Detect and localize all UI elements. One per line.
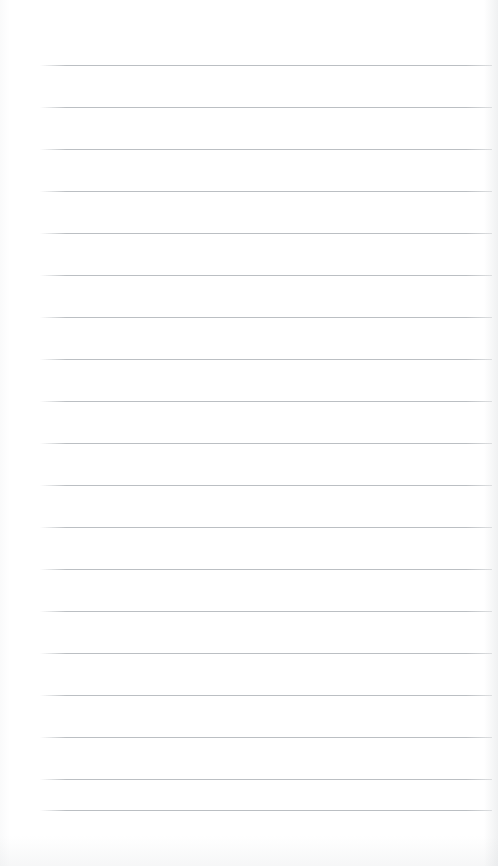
rule-line xyxy=(40,653,492,654)
rule-line xyxy=(40,65,492,66)
rule-line xyxy=(40,191,492,192)
rule-line xyxy=(40,443,492,444)
rule-line xyxy=(40,737,492,738)
rule-line xyxy=(40,233,492,234)
rule-line xyxy=(40,359,492,360)
rule-line xyxy=(40,485,492,486)
ruled-line-area xyxy=(0,0,498,866)
rule-line xyxy=(40,149,492,150)
rule-line xyxy=(40,527,492,528)
rule-line xyxy=(40,810,492,811)
rule-line xyxy=(40,401,492,402)
rule-line xyxy=(40,695,492,696)
rule-line xyxy=(40,779,492,780)
rule-line xyxy=(40,317,492,318)
rule-line xyxy=(40,611,492,612)
rule-line xyxy=(40,275,492,276)
rule-line xyxy=(40,569,492,570)
notepad-page xyxy=(0,0,498,866)
rule-line xyxy=(40,107,492,108)
